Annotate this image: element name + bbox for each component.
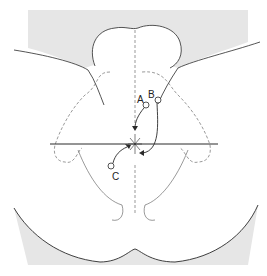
lower-shaded-region bbox=[14, 205, 258, 265]
right-lower-fascia bbox=[144, 150, 188, 220]
point-a-marker bbox=[143, 102, 149, 108]
left-lower-fascia bbox=[78, 150, 123, 220]
point-b-marker bbox=[155, 97, 161, 103]
upper-bulb-outline bbox=[92, 25, 181, 68]
arrow-a bbox=[135, 108, 144, 128]
label-a: A bbox=[137, 94, 144, 105]
arrow-c bbox=[113, 147, 127, 163]
label-c: C bbox=[112, 171, 119, 182]
arrow-c-head bbox=[125, 144, 131, 149]
arrow-b-head bbox=[139, 150, 144, 156]
anus-marking bbox=[128, 134, 142, 154]
label-b: B bbox=[148, 89, 155, 100]
left-dashed-outline bbox=[54, 72, 110, 162]
right-dashed-outline bbox=[142, 72, 210, 163]
arrow-a-head bbox=[132, 126, 138, 131]
arrow-b bbox=[143, 103, 158, 153]
anatomical-diagram: A B C bbox=[0, 0, 267, 276]
point-c-marker bbox=[108, 163, 114, 169]
